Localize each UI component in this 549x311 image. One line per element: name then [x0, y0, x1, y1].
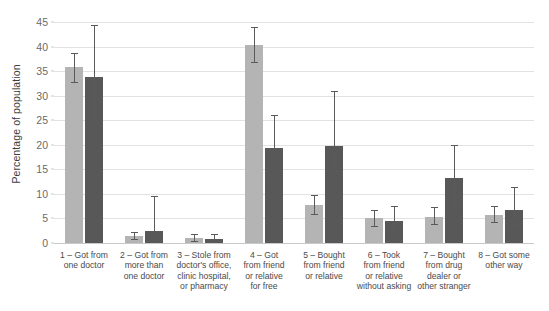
- error-cap-lower-8-series_1: [491, 222, 498, 223]
- error-cap-upper-6-series_1: [371, 210, 378, 211]
- x-axis-label-8: 8 – Got some other way: [470, 250, 538, 271]
- error-bar-3-series_2: [214, 234, 215, 242]
- error-cap-upper-2-series_1: [131, 232, 138, 233]
- error-bar-6-series_1: [374, 210, 375, 227]
- x-axis-label-2: 2 – Got from more than one doctor: [110, 250, 178, 281]
- error-cap-lower-4-series_1: [251, 62, 258, 63]
- error-cap-upper-1-series_1: [71, 53, 78, 54]
- bar-group-5: [294, 22, 354, 243]
- bar-group-3: [174, 22, 234, 243]
- bar-4-series_1: [245, 45, 263, 243]
- error-cap-lower-7-series_1: [431, 224, 438, 225]
- error-cap-upper-8-series_2: [511, 187, 518, 188]
- y-tick-label-45: 45: [36, 16, 48, 28]
- bar-group-7: [414, 22, 474, 243]
- error-cap-upper-1-series_2: [91, 25, 98, 26]
- error-cap-upper-3-series_2: [211, 234, 218, 235]
- error-bar-5-series_2: [334, 91, 335, 171]
- bar-chart: Percentage of population 051015202530354…: [0, 0, 549, 311]
- x-axis-label-3: 3 – Stole from doctor's office, clinic h…: [170, 250, 238, 292]
- y-tick-label-25: 25: [36, 114, 48, 126]
- error-bar-8-series_2: [514, 187, 515, 224]
- bar-group-4: [234, 22, 294, 243]
- error-cap-lower-6-series_1: [371, 226, 378, 227]
- x-axis-label-6: 6 – Took from friend or relative without…: [350, 250, 418, 292]
- y-tick-label-0: 0: [42, 237, 48, 249]
- y-tick-label-20: 20: [36, 139, 48, 151]
- error-bar-5-series_1: [314, 195, 315, 214]
- x-axis-label-4: 4 – Got from friend or relative for free: [230, 250, 298, 292]
- y-tick-label-10: 10: [36, 188, 48, 200]
- error-cap-lower-2-series_1: [131, 239, 138, 240]
- bar-group-8: [474, 22, 534, 243]
- x-axis-label-7: 7 – Bought from drug dealer or other str…: [410, 250, 478, 292]
- error-cap-upper-3-series_1: [191, 234, 198, 235]
- error-bar-2-series_2: [154, 196, 155, 240]
- error-bar-1-series_2: [94, 25, 95, 120]
- error-cap-lower-4-series_2: [271, 180, 278, 181]
- error-cap-lower-1-series_1: [71, 82, 78, 83]
- error-bar-7-series_2: [454, 145, 455, 204]
- error-cap-lower-5-series_1: [311, 214, 318, 215]
- error-cap-lower-5-series_2: [331, 171, 338, 172]
- error-cap-upper-4-series_1: [251, 27, 258, 28]
- error-cap-lower-6-series_2: [391, 231, 398, 232]
- error-bar-1-series_1: [74, 53, 75, 81]
- bar-group-2: [114, 22, 174, 243]
- error-bar-6-series_2: [394, 206, 395, 232]
- error-cap-upper-2-series_2: [151, 196, 158, 197]
- y-tick-label-40: 40: [36, 41, 48, 53]
- bar-group-1: [54, 22, 114, 243]
- error-cap-lower-7-series_2: [451, 204, 458, 205]
- y-tick-label-35: 35: [36, 65, 48, 77]
- error-bar-8-series_1: [494, 206, 495, 222]
- error-cap-upper-6-series_2: [391, 206, 398, 207]
- error-cap-upper-5-series_2: [331, 91, 338, 92]
- x-axis-line: 0: [54, 243, 534, 244]
- error-bar-2-series_1: [134, 232, 135, 239]
- plot-area: 051015202530354045: [54, 22, 534, 243]
- y-tick-label-15: 15: [36, 163, 48, 175]
- error-bar-4-series_2: [274, 115, 275, 179]
- y-axis-title: Percentage of population: [10, 24, 22, 224]
- bar-1-series_1: [65, 67, 83, 243]
- error-bar-4-series_1: [254, 27, 255, 62]
- error-cap-lower-2-series_2: [151, 240, 158, 241]
- error-cap-lower-3-series_1: [191, 241, 198, 242]
- error-cap-upper-4-series_2: [271, 115, 278, 116]
- y-tick-label-30: 30: [36, 90, 48, 102]
- error-cap-upper-7-series_2: [451, 145, 458, 146]
- bar-group-6: [354, 22, 414, 243]
- x-axis-label-5: 5 – Bought from friend or relative: [290, 250, 358, 281]
- error-cap-lower-1-series_2: [91, 121, 98, 122]
- error-cap-upper-8-series_1: [491, 206, 498, 207]
- error-bar-7-series_1: [434, 207, 435, 225]
- error-cap-lower-3-series_2: [211, 242, 218, 243]
- y-tick-label-5: 5: [42, 212, 48, 224]
- x-axis-label-1: 1 – Got from one doctor: [50, 250, 118, 271]
- error-cap-lower-8-series_2: [511, 224, 518, 225]
- error-cap-upper-5-series_1: [311, 195, 318, 196]
- error-cap-upper-7-series_1: [431, 207, 438, 208]
